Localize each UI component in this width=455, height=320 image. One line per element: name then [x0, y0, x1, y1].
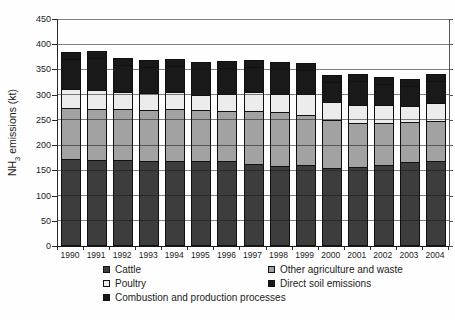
y-axis-tick-label-150: 150 [25, 165, 51, 175]
bar-segment-2002-combustion-and-production-processes [374, 77, 394, 85]
y-axis-tick-label-250: 250 [25, 115, 51, 125]
legend-item-cattle: Cattle [103, 264, 268, 275]
gridline-150 [58, 170, 449, 171]
gridline-50 [58, 220, 449, 221]
bar-segment-1993-other-agriculture-and-waste [139, 110, 159, 162]
legend-marker-icon [268, 266, 275, 273]
bar-segment-2000-direct-soil-emissions [322, 82, 342, 104]
bar-segment-1994-other-agriculture-and-waste [165, 109, 185, 161]
x-axis-tick [187, 247, 188, 250]
x-axis-label-1994: 1994 [161, 250, 187, 260]
legend-item-poultry: Poultry [103, 278, 268, 289]
bar-segment-2001-cattle [348, 167, 368, 246]
x-axis-label-2004: 2004 [422, 250, 448, 260]
gridline-350 [58, 69, 449, 70]
y-axis-tick-label-450: 450 [25, 14, 51, 24]
plot-area [57, 19, 450, 247]
bar-segment-1991-direct-soil-emissions [87, 58, 107, 90]
bar-segment-2001-combustion-and-production-processes [348, 74, 368, 82]
y-axis-tick [52, 95, 57, 96]
bar-segment-1996-direct-soil-emissions [217, 68, 237, 94]
x-axis-label-1998: 1998 [266, 250, 292, 260]
bar-segment-2001-direct-soil-emissions [348, 81, 368, 106]
gridline-300 [58, 94, 449, 95]
bar-segment-2002-cattle [374, 165, 394, 246]
bar-segment-1991-poultry [87, 90, 107, 111]
x-axis-label-2001: 2001 [344, 250, 370, 260]
bar-segment-1996-cattle [217, 161, 237, 246]
y-axis-tick [52, 44, 57, 45]
legend-marker-icon [103, 294, 110, 301]
legend-marker-icon [103, 266, 110, 273]
bar-segment-1995-direct-soil-emissions [191, 69, 211, 95]
gridline-100 [58, 195, 449, 196]
x-axis-label-1996: 1996 [213, 250, 239, 260]
y-axis-tick-right [449, 44, 453, 45]
y-axis-tick-label-0: 0 [25, 241, 51, 251]
x-axis-label-1991: 1991 [83, 250, 109, 260]
x-axis-tick [239, 247, 240, 250]
gridline-450 [58, 19, 449, 20]
y-axis-title: NH3 emissions (kt) [6, 73, 21, 193]
y-axis-tick [52, 120, 57, 121]
x-axis-label-2000: 2000 [318, 250, 344, 260]
y-axis-tick-label-300: 300 [25, 90, 51, 100]
bar-segment-2004-other-agriculture-and-waste [426, 121, 446, 162]
x-axis-label-1993: 1993 [135, 250, 161, 260]
bar-segment-1992-cattle [113, 160, 133, 246]
y-axis-tick [52, 221, 57, 222]
y-axis-tick-right [449, 246, 453, 247]
bar-segment-1998-poultry [270, 94, 290, 114]
bar-segment-2000-cattle [322, 168, 342, 246]
bar-segment-1994-cattle [165, 161, 185, 246]
bar-segment-1991-other-agriculture-and-waste [87, 109, 107, 161]
x-axis-tick [213, 247, 214, 250]
y-axis-tick-label-350: 350 [25, 64, 51, 74]
bar-segment-1991-combustion-and-production-processes [87, 51, 107, 59]
x-axis-tick [161, 247, 162, 250]
gridline-400 [58, 44, 449, 45]
legend-label: Other agriculture and waste [280, 264, 403, 275]
bar-segment-1993-cattle [139, 161, 159, 246]
y-axis-tick-right [449, 95, 453, 96]
y-axis-tick-label-200: 200 [25, 140, 51, 150]
bar-segment-2004-combustion-and-production-processes [426, 74, 446, 82]
y-axis-tick-right [449, 145, 453, 146]
y-axis-tick-right [449, 196, 453, 197]
bar-segment-1993-direct-soil-emissions [139, 67, 159, 93]
x-axis-tick [109, 247, 110, 250]
x-axis-label-1990: 1990 [57, 250, 83, 260]
y-axis-tick-right [449, 120, 453, 121]
legend-marker-icon [268, 280, 275, 287]
x-axis-tick [266, 247, 267, 250]
y-axis-tick [52, 19, 57, 20]
bar-segment-1994-direct-soil-emissions [165, 66, 185, 93]
y-axis-tick [52, 170, 57, 171]
y-axis-tick [52, 69, 57, 70]
bar-segment-1993-combustion-and-production-processes [139, 60, 159, 68]
nh3-emissions-chart: NH3 emissions (kt) CattleOther agricultu… [0, 0, 455, 320]
legend-marker-icon [103, 280, 110, 287]
x-axis-label-2002: 2002 [370, 250, 396, 260]
bar-segment-1995-cattle [191, 161, 211, 246]
bar-segment-1996-poultry [217, 94, 237, 112]
x-axis-label-1995: 1995 [187, 250, 213, 260]
bar-segment-1992-combustion-and-production-processes [113, 58, 133, 66]
bar-segment-1990-other-agriculture-and-waste [61, 108, 81, 160]
x-axis-label-1992: 1992 [109, 250, 135, 260]
bar-segment-1997-direct-soil-emissions [244, 67, 264, 93]
y-axis-tick-right [449, 170, 453, 171]
bar-segment-1998-direct-soil-emissions [270, 69, 290, 94]
y-axis-tick-label-100: 100 [25, 191, 51, 201]
bar-segment-1990-combustion-and-production-processes [61, 52, 81, 60]
bar-segment-1994-combustion-and-production-processes [165, 59, 185, 67]
bar-segment-1990-cattle [61, 159, 81, 246]
bar-segment-1999-cattle [296, 165, 316, 246]
bar-segment-1997-combustion-and-production-processes [244, 60, 264, 68]
x-axis-tick [57, 247, 58, 250]
bar-segment-1995-other-agriculture-and-waste [191, 110, 211, 162]
bar-segment-1999-direct-soil-emissions [296, 70, 316, 95]
bar-segment-2003-direct-soil-emissions [400, 86, 420, 107]
y-axis-tick [52, 196, 57, 197]
gridline-200 [58, 145, 449, 146]
